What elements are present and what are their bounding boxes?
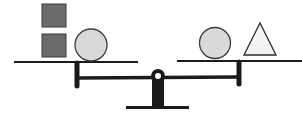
balance-scale-svg (0, 0, 302, 114)
balance-scale-diagram (0, 0, 302, 114)
square-icon (42, 34, 66, 57)
triangle-icon (244, 23, 276, 55)
square-icon (42, 4, 66, 27)
circle-icon (75, 29, 107, 61)
circle-icon (200, 28, 231, 59)
pivot-pin-icon (155, 73, 161, 79)
